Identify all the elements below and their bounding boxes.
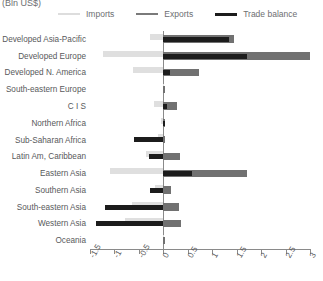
bar-balance (96, 221, 163, 226)
bar-group (90, 182, 310, 199)
legend-label-exports: Exports (164, 9, 193, 19)
category-label: Developed Asia-Pacific (2, 35, 86, 44)
bar-imports (110, 168, 163, 174)
bar-exports (163, 153, 180, 161)
legend-swatch-exports-icon (136, 13, 158, 15)
bar-imports (150, 34, 163, 40)
category-label: Oceania (56, 236, 87, 245)
legend-item-trade-balance: Trade balance (215, 9, 297, 19)
bar-balance (149, 154, 163, 159)
plot-area (90, 31, 310, 249)
category-label: Western Asia (38, 219, 86, 228)
x-axis-tick-label: 1 (210, 251, 220, 259)
legend-item-exports: Exports (136, 9, 193, 19)
x-axis-tick-label: 0 (161, 251, 171, 259)
category-label: Developed Europe (18, 52, 86, 61)
legend-swatch-imports-icon (58, 13, 80, 15)
category-label: Latin Am, Caribbean (12, 152, 86, 161)
bar-group (90, 48, 310, 65)
units-caption: (Bln US$) (2, 0, 41, 9)
bar-balance (163, 54, 247, 59)
bar-balance (134, 137, 163, 142)
bar-balance (163, 121, 164, 126)
legend-swatch-trade-balance-icon (215, 13, 237, 16)
category-label: South-eastern Asia (17, 203, 86, 212)
trade-bar-chart: (Bln US$) Imports Exports Trade balance … (0, 0, 323, 281)
bar-exports (163, 136, 164, 144)
category-label: Southern Asia (35, 186, 86, 195)
bar-balance (163, 104, 166, 109)
bar-balance (105, 205, 164, 210)
category-label: C I S (68, 102, 86, 111)
category-label: Sub-Saharan Africa (15, 136, 86, 145)
bar-exports (163, 186, 171, 194)
bar-group (90, 215, 310, 232)
x-axis-line (90, 249, 310, 250)
bar-balance (150, 188, 163, 193)
bar-imports (103, 51, 163, 57)
x-axis-tick-labels: -1.5-1-0.500.511.522.53 (90, 255, 310, 281)
bar-exports (163, 203, 179, 211)
bar-group (90, 98, 310, 115)
bar-group (90, 31, 310, 48)
bar-balance (163, 171, 191, 176)
legend-label-imports: Imports (86, 9, 114, 19)
x-axis-tick-label: 2 (259, 251, 269, 259)
legend-label-trade-balance: Trade balance (243, 9, 297, 19)
bar-exports (163, 220, 181, 228)
legend-item-imports: Imports (58, 9, 114, 19)
bar-exports (163, 237, 164, 245)
bar-group (90, 81, 310, 98)
category-label: Eastern Asia (40, 169, 86, 178)
category-label: Northern Africa (31, 119, 86, 128)
bar-group (90, 115, 310, 132)
bar-balance (163, 70, 170, 75)
bar-exports (163, 86, 164, 94)
bar-group (90, 65, 310, 82)
category-label: South-eastern Europe (6, 85, 86, 94)
bar-group (90, 165, 310, 182)
x-axis-tick-label: -1 (112, 249, 123, 260)
bar-group (90, 232, 310, 249)
bar-balance (163, 37, 229, 42)
bar-imports (133, 67, 163, 73)
bar-imports (154, 101, 164, 107)
bar-group (90, 132, 310, 149)
x-axis-tick-label: 3 (308, 251, 318, 259)
bar-group (90, 199, 310, 216)
category-label: Developed N. America (5, 68, 86, 77)
chart-legend: Imports Exports Trade balance (58, 9, 297, 19)
bar-group (90, 148, 310, 165)
category-axis-labels: Developed Asia-PacificDeveloped EuropeDe… (0, 31, 86, 249)
